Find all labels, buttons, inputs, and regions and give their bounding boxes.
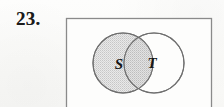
venn-diagram-figure: S T	[60, 12, 224, 107]
set-t-label: T	[147, 55, 157, 71]
figure-page: 23.	[0, 0, 224, 107]
exercise-number-label: 23.	[16, 8, 40, 30]
venn-diagram-svg: S T	[60, 12, 224, 107]
set-s-label: S	[115, 56, 123, 72]
